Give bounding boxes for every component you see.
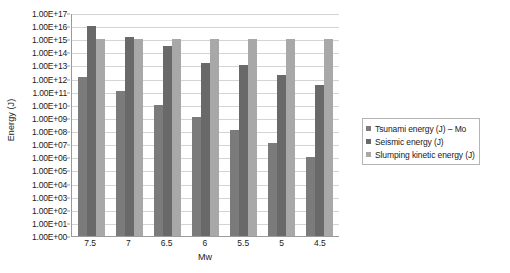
bar — [116, 91, 125, 236]
legend-item[interactable]: Tsunami energy (J) – Mo — [366, 122, 475, 135]
x-axis-tick-label: 5 — [262, 238, 300, 252]
bar-group — [263, 14, 301, 236]
y-axis-tick-label: 1.00E+08 — [32, 127, 67, 137]
bar-group — [72, 14, 110, 236]
bar — [277, 75, 286, 236]
x-axis-tick-label: 6.5 — [148, 238, 186, 252]
x-axis-tick-label: 7 — [109, 238, 147, 252]
legend-item-label: Slumping kinetic energy (J) — [375, 150, 475, 160]
x-axis-tick-label: 4.5 — [301, 238, 339, 252]
y-axis-tick-mark — [67, 66, 70, 67]
bar — [87, 26, 96, 236]
bar — [324, 39, 333, 236]
y-axis-tick-mark — [67, 210, 70, 211]
bar-chart: Energy (J) 1.00E+171.00E+161.00E+151.00E… — [0, 0, 510, 273]
bar — [315, 85, 324, 237]
plot-area — [71, 14, 339, 237]
y-axis-tick-label: 1.00E+06 — [32, 153, 67, 163]
bar — [78, 77, 87, 236]
bar — [230, 130, 239, 236]
y-axis-tick-mark — [67, 40, 70, 41]
legend-item[interactable]: Slumping kinetic energy (J) — [366, 148, 475, 161]
y-axis-tick-mark — [67, 92, 70, 93]
x-axis-tick-label: 5.5 — [224, 238, 262, 252]
bars-layer — [72, 14, 339, 236]
y-axis-tick-mark — [67, 79, 70, 80]
y-axis-tick-mark — [67, 171, 70, 172]
y-axis-tick-mark — [67, 14, 70, 15]
bar — [306, 157, 315, 236]
bar — [96, 39, 105, 236]
y-axis-tick-label: 1.00E+09 — [32, 114, 67, 124]
y-axis-tick-label: 1.00E+17 — [32, 9, 67, 19]
y-axis-tick-label: 1.00E+04 — [32, 180, 67, 190]
y-axis-tick-mark — [67, 105, 70, 106]
bar-group — [148, 14, 186, 236]
legend-swatch-icon — [366, 152, 371, 157]
bar-group — [110, 14, 148, 236]
y-axis-tick-mark — [67, 118, 70, 119]
y-axis-tick-label: 1.00E+05 — [32, 166, 67, 176]
bar — [248, 39, 257, 236]
y-axis-title-text: Energy (J) — [6, 99, 16, 142]
y-axis-tick-mark — [67, 197, 70, 198]
y-axis-tick-label: 1.00E+01 — [32, 219, 67, 229]
legend-swatch-icon — [366, 139, 371, 144]
bar — [192, 117, 201, 236]
y-axis-tick-label: 1.00E+03 — [32, 193, 67, 203]
x-axis-title: Mw — [71, 252, 339, 262]
y-axis-tick-label: 1.00E+16 — [32, 22, 67, 32]
y-axis-tick-mark — [67, 132, 70, 133]
bar — [134, 39, 143, 236]
y-axis-tick-label: 1.00E+14 — [32, 48, 67, 58]
y-axis-tick-mark — [67, 145, 70, 146]
legend-item-label: Seismic energy (J) — [375, 137, 444, 147]
y-axis-tick-label: 1.00E+10 — [32, 101, 67, 111]
bar — [286, 39, 295, 236]
x-axis-tick-labels: 7.576.565.554.5 — [71, 238, 339, 252]
bar — [268, 143, 277, 236]
bar — [154, 105, 163, 236]
y-axis-tick-mark — [67, 184, 70, 185]
y-axis-tick-labels: 1.00E+171.00E+161.00E+151.00E+141.00E+13… — [18, 8, 70, 244]
bar — [201, 63, 210, 236]
y-axis-tick-mark — [67, 158, 70, 159]
y-axis-tick-mark — [67, 27, 70, 28]
bar — [210, 39, 219, 236]
y-axis-tick-label: 1.00E+12 — [32, 75, 67, 85]
bar — [125, 37, 134, 236]
bar-group — [301, 14, 339, 236]
bar — [239, 65, 248, 236]
legend-item[interactable]: Seismic energy (J) — [366, 135, 475, 148]
legend-item-label: Tsunami energy (J) – Mo — [375, 124, 466, 134]
bar — [172, 39, 181, 236]
y-axis-tick-label: 1.00E+13 — [32, 61, 67, 71]
y-axis-tick-label: 1.00E+00 — [32, 232, 67, 242]
bar-group — [186, 14, 224, 236]
y-axis-tick-mark — [67, 223, 70, 224]
x-axis-tick-label: 7.5 — [71, 238, 109, 252]
y-axis-tick-label: 1.00E+07 — [32, 140, 67, 150]
y-axis-tick-mark — [67, 237, 70, 238]
bar-group — [225, 14, 263, 236]
bar — [163, 46, 172, 236]
y-axis-tick-mark — [67, 53, 70, 54]
y-axis-tick-label: 1.00E+11 — [33, 88, 67, 98]
legend-swatch-icon — [366, 126, 371, 131]
chart-legend: Tsunami energy (J) – MoSeismic energy (J… — [362, 118, 480, 165]
y-axis-tick-label: 1.00E+15 — [32, 35, 67, 45]
y-axis-tick-label: 1.00E+02 — [32, 206, 67, 216]
x-axis-tick-label: 6 — [186, 238, 224, 252]
